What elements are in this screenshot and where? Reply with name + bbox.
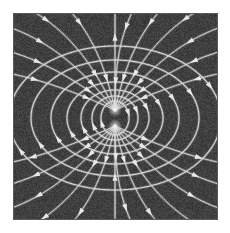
dipole-field-diagram — [0, 0, 230, 233]
figure-root: Magnetic dipole field lines Grayscale di… — [0, 0, 230, 233]
